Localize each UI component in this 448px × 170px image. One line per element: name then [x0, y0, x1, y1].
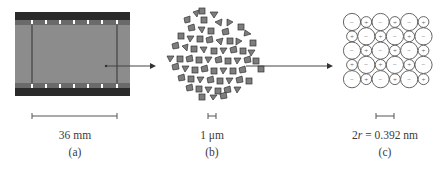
- plus-sign: +: [379, 33, 383, 41]
- minus-sign: −: [379, 76, 383, 84]
- plus-sign: +: [393, 47, 397, 55]
- minus-sign: −: [422, 61, 426, 69]
- scale-label-c: 2r = 0.392 nm: [325, 129, 445, 141]
- scale-label-b: 1 μm: [152, 129, 272, 141]
- scale-bar-b: [208, 113, 216, 119]
- panel-label-c: (c): [355, 146, 415, 158]
- plus-sign: +: [379, 61, 383, 69]
- grain-cluster: [167, 8, 264, 100]
- plus-sign: +: [350, 61, 354, 69]
- plus-sign: +: [422, 47, 426, 55]
- minus-sign: −: [350, 47, 354, 55]
- plus-sign: +: [393, 76, 397, 84]
- minus-sign: −: [393, 33, 397, 41]
- scale-label-a: 36 mm: [15, 129, 135, 141]
- plus-sign: +: [407, 61, 411, 69]
- film-strip: [15, 12, 130, 96]
- minus-sign: −: [407, 76, 411, 84]
- plus-sign: +: [364, 76, 368, 84]
- minus-sign: −: [379, 47, 383, 55]
- plus-sign: +: [422, 19, 426, 27]
- plus-sign: +: [422, 76, 426, 84]
- minus-sign: −: [379, 19, 383, 27]
- plus-sign: +: [350, 33, 354, 41]
- minus-sign: −: [350, 76, 354, 84]
- plus-sign: +: [407, 33, 411, 41]
- scale-bar-c: [376, 113, 394, 119]
- ionic-lattice: −+−+−++−+−+−−+−+−++−+−+−−+−+−+: [343, 13, 432, 87]
- minus-sign: −: [364, 61, 368, 69]
- panel-label-a: (a): [45, 146, 105, 158]
- plus-sign: +: [364, 19, 368, 27]
- diagram-canvas: −+−+−++−+−+−−+−+−++−+−+−−+−+−+: [0, 0, 448, 170]
- plus-sign: +: [364, 47, 368, 55]
- minus-sign: −: [364, 33, 368, 41]
- minus-sign: −: [393, 61, 397, 69]
- minus-sign: −: [407, 47, 411, 55]
- scale-bar-a: [32, 113, 117, 119]
- minus-sign: −: [422, 33, 426, 41]
- plus-sign: +: [393, 19, 397, 27]
- minus-sign: −: [350, 19, 354, 27]
- minus-sign: −: [407, 19, 411, 27]
- scale-label-c-suffix: = 0.392 nm: [362, 129, 418, 141]
- panel-label-b: (b): [182, 146, 242, 158]
